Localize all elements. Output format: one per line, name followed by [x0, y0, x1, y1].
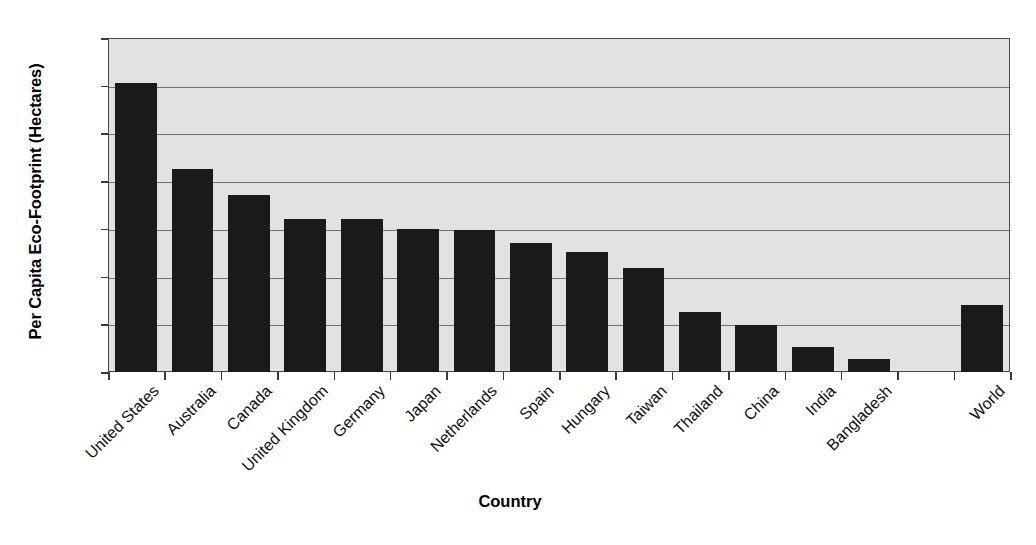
- bar: [735, 325, 777, 372]
- y-tick-mark: [101, 38, 108, 40]
- bar: [454, 230, 496, 372]
- bar: [284, 219, 326, 372]
- x-category-label: China: [741, 382, 783, 424]
- bar: [115, 83, 157, 372]
- bar: [792, 347, 834, 372]
- x-category-label: India: [802, 382, 839, 419]
- x-axis-title: Country: [108, 492, 912, 511]
- y-tick-mark: [101, 86, 108, 88]
- x-category-label: Australia: [163, 382, 220, 439]
- bar: [228, 195, 270, 372]
- y-tick-mark: [101, 277, 108, 279]
- x-category-label: Hungary: [558, 382, 613, 437]
- bar: [961, 305, 1003, 372]
- bar: [623, 268, 665, 372]
- y-tick-mark: [101, 133, 108, 135]
- bar: [679, 312, 721, 372]
- x-category-label: United States: [82, 382, 163, 463]
- y-tick-mark: [101, 324, 108, 326]
- y-tick-mark: [101, 181, 108, 183]
- x-category-label: Thailand: [671, 382, 727, 438]
- bar: [397, 229, 439, 372]
- x-category-label: Canada: [223, 382, 275, 434]
- bar: [566, 252, 608, 372]
- x-category-label: World: [966, 382, 1008, 424]
- y-axis-title: Per Capita Eco-Footprint (Hectares): [26, 22, 45, 382]
- bar-chart: Per Capita Eco-Footprint (Hectares) 0246…: [0, 0, 1036, 545]
- bars-layer: [108, 38, 1010, 372]
- bar: [341, 219, 383, 372]
- x-category-label: Spain: [516, 382, 558, 424]
- bar: [848, 359, 890, 372]
- x-category-label: Taiwan: [622, 382, 670, 430]
- x-category-label: Germany: [329, 382, 388, 441]
- bar: [510, 243, 552, 372]
- x-category-label: Japan: [401, 382, 445, 426]
- bar: [172, 169, 214, 372]
- y-tick-mark: [101, 229, 108, 231]
- x-axis-labels: United StatesAustraliaCanadaUnited Kingd…: [0, 372, 1036, 492]
